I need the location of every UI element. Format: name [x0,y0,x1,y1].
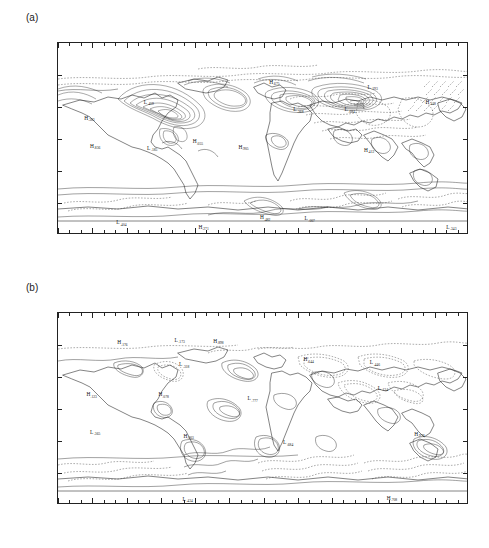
panel-b-xtick [343,500,344,503]
panel-b-xtick [241,313,242,316]
panel-b-xtick [92,498,93,503]
panel-a-xtick [184,43,185,46]
extremum-value: .684 [287,443,293,447]
panel-a-xtick [81,230,82,233]
panel-a-tag: (a) [26,12,38,23]
panel-a-xtick [401,43,402,48]
panel-b-xtick [298,498,299,503]
panel-b-ytick [463,441,467,442]
panel-b-xtick [321,500,322,503]
panel-a-map: L.459H.383H.836L.185H.055H.675H.905L.368… [58,43,468,234]
panel-a-xtick [172,230,173,233]
extremum-type: L [147,145,150,151]
panel-b-ytick [58,473,62,474]
extremum-type: L [293,106,296,112]
panel-b-plot-area: H.176L.173H.898L.318H.123H.078L.365H.003… [57,312,468,504]
panel-a-xtick [378,230,379,233]
extremum-value: .176 [121,343,127,347]
panel-a-xtick [149,230,150,233]
panel-b-xtick [378,313,379,316]
panel-b-ytick [58,441,62,442]
extremum-value: .448 [430,102,436,106]
panel-b-xtick [355,500,356,503]
panel-b-xtick [195,498,196,503]
panel-a-plot-area: L.459H.383H.836L.185H.055H.675H.905L.368… [57,42,468,234]
panel-b-xtick [264,313,265,318]
panel-b-xtick [446,500,447,503]
panel-b-xtick [389,500,390,503]
panel-a-xtick [309,230,310,233]
panel-b-xtick [161,498,162,503]
panel-a-xtick [104,43,105,46]
extremum-value: .055 [197,142,203,146]
figure-panel-a: (a) [0,0,489,278]
panel-b-xtick [378,500,379,503]
extremum-type: L [345,106,348,112]
panel-a-xtick [138,230,139,233]
panel-a-xtick [378,43,379,46]
panel-a-xtick [229,43,230,48]
panel-b-xtick [127,498,128,503]
extremum-value: .446 [374,363,380,367]
panel-a-xtick [241,230,242,233]
panel-a-ytick [58,75,62,76]
panel-b-map: H.176L.173H.898L.318H.123H.078L.365H.003… [58,313,468,504]
extremum-value: .644 [307,360,313,364]
extremum-type: L [367,84,370,90]
panel-b-xtick [286,313,287,316]
extremum-value: .173 [178,340,184,344]
extremum-value: .365 [94,432,100,436]
panel-a-xtick [81,43,82,46]
panel-a-xtick [104,230,105,233]
panel-b-xtick [195,313,196,318]
panel-b-xtick [286,500,287,503]
panel-b-xtick [446,313,447,316]
panel-a-ytick [463,139,467,140]
panel-b-xtick [252,313,253,316]
panel-a-xtick [435,43,436,48]
panel-b-xtick [104,500,105,503]
extremum-value: .003 [188,436,194,440]
panel-a-xtick [321,230,322,233]
panel-b-xtick [115,500,116,503]
panel-b-xtick [423,500,424,503]
extremum-value: .412 [368,150,374,154]
panel-b-ytick [463,345,467,346]
positive-contours-a [58,89,468,217]
extremum-value: .007 [309,219,315,223]
extremum-value: .708 [391,498,397,502]
panel-b-xtick [412,313,413,316]
panel-a-xtick [298,228,299,233]
panel-a-xtick [149,43,150,46]
panel-b-xtick [206,313,207,316]
panel-b-xtick [275,313,276,316]
panel-a-xtick [423,43,424,46]
panel-b-xtick [206,500,207,503]
panel-b-xtick [172,500,173,503]
extremum-value: .459 [148,102,154,106]
panel-b-ytick [58,345,62,346]
extremum-value: .482 [264,218,270,222]
extremum-type: L [179,361,182,367]
extremum-value: .318 [183,365,189,369]
panel-b-xtick [366,313,367,318]
panel-b-ytick [463,473,467,474]
panel-a-xtick [69,43,70,46]
figure-panel-b: (b) [0,270,489,548]
panel-a-xtick [366,43,367,48]
panel-a-xtick [446,230,447,233]
panel-b-xtick [423,313,424,316]
panel-b-xtick [366,498,367,503]
panel-b-xtick [458,313,459,316]
panel-a-xtick [218,230,219,233]
panel-a-xtick [264,228,265,233]
panel-a-xtick [355,43,356,46]
panel-a-xtick [115,230,116,233]
panel-a-xtick [241,43,242,46]
panel-a-xtick [229,228,230,233]
positive-contours-b [58,357,468,487]
panel-a-xtick [264,43,265,48]
panel-b-xtick [401,498,402,503]
panel-a-xtick [275,43,276,46]
extremum-type: L [90,429,93,435]
